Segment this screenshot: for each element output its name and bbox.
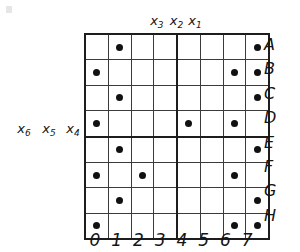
grid-cell-F0[interactable] xyxy=(85,162,108,187)
marker-dot xyxy=(93,120,100,127)
grid-cell-B1[interactable] xyxy=(108,60,131,85)
marker-dot xyxy=(254,197,261,204)
marker-dot xyxy=(254,94,261,101)
grid-cell-E3[interactable] xyxy=(154,137,177,163)
grid-cell-C5[interactable] xyxy=(200,85,223,110)
marker-dot xyxy=(231,172,238,179)
grid-row xyxy=(85,188,269,213)
marker-dot xyxy=(254,69,261,76)
grid-cell-C6[interactable] xyxy=(223,85,246,110)
grid-cell-F4[interactable] xyxy=(177,162,200,187)
marker-dot xyxy=(139,172,146,179)
grid-cell-A3[interactable] xyxy=(154,34,177,60)
row-label-H: H xyxy=(264,204,286,228)
grid-cell-F1[interactable] xyxy=(108,162,131,187)
grid-cell-C4[interactable] xyxy=(177,85,200,110)
row-label-D: D xyxy=(264,106,286,130)
grid-row xyxy=(85,85,269,110)
grid-cell-C2[interactable] xyxy=(131,85,154,110)
grid-cell-A4[interactable] xyxy=(177,34,200,60)
top-variable-label-x2: x2 xyxy=(170,14,183,30)
grid-row xyxy=(85,60,269,85)
grid-row xyxy=(85,34,269,60)
grid-cell-D0[interactable] xyxy=(85,111,108,137)
grid-cell-G2[interactable] xyxy=(131,188,154,213)
top-variable-label-x1: x1 xyxy=(188,14,201,30)
left-axis-variable-labels: x6x5x4 xyxy=(10,122,84,142)
column-label-3: 3 xyxy=(149,229,171,251)
grid-table xyxy=(84,33,270,240)
row-label-C: C xyxy=(264,82,286,106)
marker-dot xyxy=(93,172,100,179)
column-label-5: 5 xyxy=(193,229,215,251)
grid-cell-A5[interactable] xyxy=(200,34,223,60)
grid-row xyxy=(85,137,269,163)
marker-dot xyxy=(254,146,261,153)
grid-cell-B3[interactable] xyxy=(154,60,177,85)
marker-dot xyxy=(116,146,123,153)
column-label-6: 6 xyxy=(215,229,237,251)
grid-cell-E5[interactable] xyxy=(200,137,223,163)
left-variable-label-x4: x4 xyxy=(66,122,79,138)
grid-cell-D6[interactable] xyxy=(223,111,246,137)
grid-cell-E2[interactable] xyxy=(131,137,154,163)
column-label-1: 1 xyxy=(106,229,128,251)
grid-cell-D1[interactable] xyxy=(108,111,131,137)
marker-dot xyxy=(116,197,123,204)
row-label-column: ABCDEFGH xyxy=(264,33,288,228)
grid-cell-B4[interactable] xyxy=(177,60,200,85)
grid-cell-B5[interactable] xyxy=(200,60,223,85)
column-label-2: 2 xyxy=(128,229,150,251)
row-label-G: G xyxy=(264,179,286,203)
grid-cell-A6[interactable] xyxy=(223,34,246,60)
top-variable-label-x3: x3 xyxy=(150,14,163,30)
grid-cell-F2[interactable] xyxy=(131,162,154,187)
row-label-B: B xyxy=(264,57,286,81)
marker-dot xyxy=(254,44,261,51)
grid-cell-G5[interactable] xyxy=(200,188,223,213)
marker-dot xyxy=(185,120,192,127)
row-label-A: A xyxy=(264,33,286,57)
grid-cell-E6[interactable] xyxy=(223,137,246,163)
grid-cell-D2[interactable] xyxy=(131,111,154,137)
grid-cell-G6[interactable] xyxy=(223,188,246,213)
marker-dot xyxy=(231,69,238,76)
grid-cell-E4[interactable] xyxy=(177,137,200,163)
scan-artifact xyxy=(6,6,12,13)
grid-cell-A0[interactable] xyxy=(85,34,108,60)
grid-cell-G0[interactable] xyxy=(85,188,108,213)
grid-cell-D4[interactable] xyxy=(177,111,200,137)
grid-cell-G4[interactable] xyxy=(177,188,200,213)
grid-cell-A2[interactable] xyxy=(131,34,154,60)
marker-dot xyxy=(116,94,123,101)
grid-cell-D3[interactable] xyxy=(154,111,177,137)
column-label-0: 0 xyxy=(84,229,106,251)
row-label-F: F xyxy=(264,155,286,179)
figure-container: x3x2x1 x6x5x4 ABCDEFGH 01234567 xyxy=(0,0,300,252)
marker-dot xyxy=(116,44,123,51)
left-variable-label-x6: x6 xyxy=(17,122,30,138)
grid-cell-B2[interactable] xyxy=(131,60,154,85)
grid-cell-C1[interactable] xyxy=(108,85,131,110)
grid-cell-E1[interactable] xyxy=(108,137,131,163)
grid-cell-B6[interactable] xyxy=(223,60,246,85)
grid-cell-C0[interactable] xyxy=(85,85,108,110)
left-variable-label-x5: x5 xyxy=(42,122,55,138)
grid-cell-E0[interactable] xyxy=(85,137,108,163)
column-label-4: 4 xyxy=(171,229,193,251)
marker-dot xyxy=(93,69,100,76)
grid-cell-F6[interactable] xyxy=(223,162,246,187)
grid-cell-F3[interactable] xyxy=(154,162,177,187)
grid-cell-G3[interactable] xyxy=(154,188,177,213)
column-label-row: 01234567 xyxy=(84,229,258,251)
row-label-E: E xyxy=(264,131,286,155)
grid xyxy=(84,33,258,228)
grid-cell-A1[interactable] xyxy=(108,34,131,60)
grid-cell-D5[interactable] xyxy=(200,111,223,137)
grid-row xyxy=(85,162,269,187)
column-label-7: 7 xyxy=(236,229,258,251)
grid-cell-B0[interactable] xyxy=(85,60,108,85)
grid-cell-F5[interactable] xyxy=(200,162,223,187)
grid-cell-G1[interactable] xyxy=(108,188,131,213)
grid-cell-C3[interactable] xyxy=(154,85,177,110)
